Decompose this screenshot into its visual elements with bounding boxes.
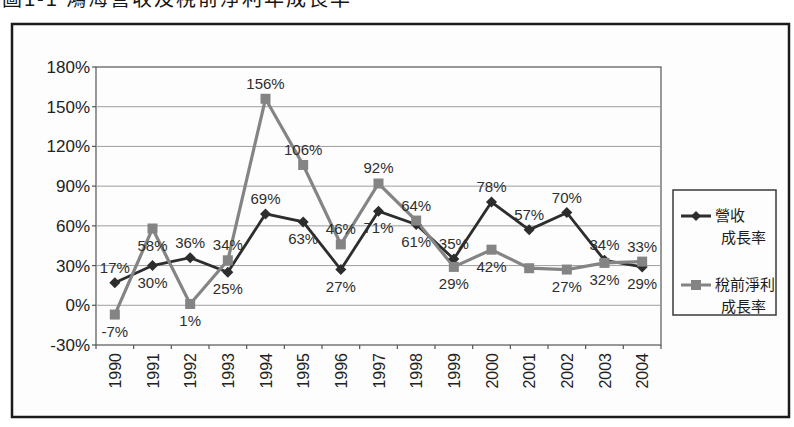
data-point-square xyxy=(524,263,534,273)
y-axis-label: -30% xyxy=(50,336,90,355)
x-axis-label: 1994 xyxy=(258,353,275,389)
data-point-square xyxy=(637,257,647,267)
data-point-square xyxy=(562,265,572,275)
x-axis-label: 2003 xyxy=(597,353,614,389)
data-point-square xyxy=(223,255,233,265)
y-axis-label: 180% xyxy=(47,58,90,77)
data-label: 70% xyxy=(552,189,582,206)
x-axis-label: 2001 xyxy=(521,353,538,389)
data-label: 34% xyxy=(589,236,619,253)
x-axis-label: 2002 xyxy=(559,353,576,389)
data-label: 33% xyxy=(627,238,657,255)
scanned-chart-page: 圖1-1 鴻海營收及稅前淨利年成長率 180%150%120%90%60%30%… xyxy=(0,0,794,427)
legend-label-line2: 成長率 xyxy=(721,298,766,315)
data-point-square xyxy=(110,310,120,320)
data-label: 42% xyxy=(476,258,506,275)
data-label: 30% xyxy=(137,274,167,291)
legend-square-marker xyxy=(691,280,701,290)
legend-label-line2: 成長率 xyxy=(721,229,766,246)
x-axis-label: 1991 xyxy=(145,353,162,389)
data-label: 29% xyxy=(439,275,469,292)
data-label: 92% xyxy=(363,159,393,176)
data-label: 64% xyxy=(401,197,431,214)
data-label: 32% xyxy=(589,271,619,288)
y-axis-label: 0% xyxy=(65,296,90,315)
x-axis-label: 2000 xyxy=(484,353,501,389)
x-axis-label: 2004 xyxy=(634,353,651,389)
data-point-square xyxy=(600,258,610,268)
data-point-square xyxy=(336,239,346,249)
data-label: 63% xyxy=(288,230,318,247)
data-label: 35% xyxy=(439,235,469,252)
y-axis-label: 120% xyxy=(47,137,90,156)
y-axis-label: 90% xyxy=(56,177,90,196)
data-label: 57% xyxy=(514,206,544,223)
data-label: 106% xyxy=(284,141,322,158)
data-point-square xyxy=(148,224,158,234)
figure-title-clipped: 圖1-1 鴻海營收及稅前淨利年成長率 xyxy=(0,0,794,11)
data-label: 78% xyxy=(476,178,506,195)
legend-label-line1: 稅前淨利 xyxy=(715,276,775,293)
x-axis-label: 1998 xyxy=(408,353,425,389)
x-axis-label: 1992 xyxy=(182,353,199,389)
data-label: 71% xyxy=(363,219,393,236)
data-label: 17% xyxy=(100,259,130,276)
data-label: 156% xyxy=(246,75,284,92)
data-point-square xyxy=(374,178,384,188)
y-axis-label: 150% xyxy=(47,98,90,117)
data-point-square xyxy=(185,299,195,309)
data-label: -7% xyxy=(101,323,128,340)
x-axis-label: 1999 xyxy=(446,353,463,389)
figure-title-text: 圖1-1 鴻海營收及稅前淨利年成長率 xyxy=(2,0,352,9)
data-label: 61% xyxy=(401,233,431,250)
data-label: 29% xyxy=(627,275,657,292)
data-point-square xyxy=(449,262,459,272)
data-label: 27% xyxy=(552,278,582,295)
data-label: 36% xyxy=(175,234,205,251)
data-label: 46% xyxy=(326,220,356,237)
data-point-square xyxy=(411,216,421,226)
x-axis-label: 1990 xyxy=(107,353,124,389)
chart-canvas: 180%150%120%90%60%30%0%-30%1990199119921… xyxy=(0,0,794,427)
x-axis-label: 1993 xyxy=(220,353,237,389)
data-label: 1% xyxy=(179,312,201,329)
data-point-square xyxy=(261,94,271,104)
data-point-square xyxy=(298,160,308,170)
y-axis-label: 60% xyxy=(56,217,90,236)
data-label: 58% xyxy=(137,237,167,254)
data-label: 69% xyxy=(250,190,280,207)
data-label: 27% xyxy=(326,278,356,295)
data-label: 25% xyxy=(213,280,243,297)
x-axis-label: 1995 xyxy=(295,353,312,389)
y-axis-label: 30% xyxy=(56,257,90,276)
x-axis-label: 1996 xyxy=(333,353,350,389)
data-point-square xyxy=(487,245,497,255)
x-axis-label: 1997 xyxy=(371,353,388,389)
data-label: 34% xyxy=(213,236,243,253)
legend-label-line1: 營收 xyxy=(715,207,745,224)
